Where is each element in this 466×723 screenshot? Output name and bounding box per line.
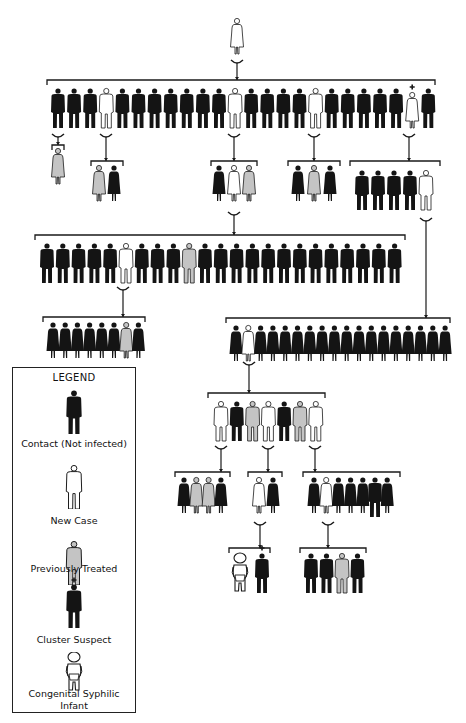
figure-contact: [214, 477, 227, 513]
index-case-figure: [231, 18, 244, 54]
figure-contact: [267, 477, 280, 513]
figure-previously-treated: [308, 165, 321, 201]
cluster-suspect-male-icon: [65, 576, 83, 628]
group-bracket: [43, 317, 145, 322]
figure-contact: [103, 243, 117, 283]
figure-contact: [320, 553, 334, 593]
figure-new-case: [309, 88, 323, 128]
figure-new-case: [228, 165, 241, 201]
figure-contact: [87, 243, 101, 283]
group-bracket: [175, 472, 230, 477]
group-bracket: [350, 161, 440, 166]
group-bracket: [226, 318, 450, 323]
figure-contact: [316, 325, 329, 361]
legend-label-infant-line1: Congenital Syphilic: [13, 688, 135, 700]
cluster-suspect-figure: [255, 546, 269, 594]
group-bracket: [91, 161, 123, 166]
figure-contact: [377, 325, 390, 361]
figure-previously-treated: [52, 148, 65, 184]
figure-contact: [371, 170, 385, 210]
figure-contact: [132, 88, 146, 128]
figure-contact: [277, 401, 291, 441]
figure-contact: [340, 325, 353, 361]
figure-contact: [254, 325, 267, 361]
figure-contact: [325, 88, 339, 128]
figure-contact: [277, 243, 291, 283]
group-bracket: [303, 472, 400, 477]
figure-contact: [59, 322, 72, 358]
figure-contact: [71, 322, 84, 358]
figure-contact: [230, 401, 244, 441]
figure-contact: [166, 243, 180, 283]
legend-label-contact: Contact (Not infected): [13, 438, 135, 450]
figure-contact: [230, 325, 243, 361]
figure-contact: [439, 325, 452, 361]
figure-contact: [304, 553, 318, 593]
figure-contact: [83, 322, 96, 358]
figure-contact: [108, 165, 121, 201]
figure-contact: [291, 325, 304, 361]
figure-contact: [40, 243, 54, 283]
figure-cluster-suspect-new: [406, 85, 419, 129]
congenital-infant-figure: [232, 553, 248, 591]
legend-title: LEGEND: [13, 372, 135, 383]
figure-previously-treated: [293, 401, 307, 441]
figure-contact: [389, 88, 403, 128]
figure-previously-treated: [93, 165, 106, 201]
figure-new-case: [214, 401, 228, 441]
figure-contact: [388, 243, 402, 283]
figure-new-case: [320, 477, 333, 513]
figure-contact: [135, 243, 149, 283]
figure-contact: [164, 88, 178, 128]
figure-contact: [357, 88, 371, 128]
figure-new-case: [419, 170, 433, 210]
legend-label-cluster-suspect: Cluster Suspect: [13, 634, 135, 646]
legend-label-new-case: New Case: [13, 515, 135, 527]
figure-previously-treated: [120, 322, 133, 358]
figure-new-case: [261, 401, 275, 441]
figure-new-case: [99, 88, 113, 128]
figure-contact: [56, 243, 70, 283]
figure-contact: [261, 243, 275, 283]
figure-contact: [95, 322, 108, 358]
figure-contact: [353, 325, 366, 361]
figure-contact: [213, 165, 226, 201]
figure-contact: [341, 88, 355, 128]
figure-contact: [276, 88, 290, 128]
legend-label-infant-line2: Infant: [13, 700, 135, 712]
figure-contact: [351, 553, 365, 593]
figure-contact: [279, 325, 292, 361]
figure-contact: [132, 322, 145, 358]
figure-contact: [67, 88, 81, 128]
figure-contact: [260, 88, 274, 128]
figure-new-case: [228, 88, 242, 128]
figure-contact: [389, 325, 402, 361]
figure-contact: [308, 477, 321, 513]
figure-contact: [292, 165, 305, 201]
figure-previously-treated: [335, 553, 349, 593]
figure-contact: [372, 243, 386, 283]
figure-previously-treated: [246, 401, 260, 441]
figure-contact: [356, 477, 369, 513]
figure-contact: [293, 243, 307, 283]
figure-contact: [309, 243, 323, 283]
figure-contact: [365, 325, 378, 361]
figure-contact: [381, 477, 394, 513]
figure-contact: [368, 477, 382, 517]
figure-contact: [198, 243, 212, 283]
figure-contact: [303, 325, 316, 361]
figure-contact: [266, 325, 279, 361]
figure-contact: [402, 325, 415, 361]
group-bracket: [35, 235, 405, 240]
legend-label-previously-treated: Previously Treated: [13, 563, 135, 575]
figure-contact: [180, 88, 194, 128]
figure-contact: [328, 325, 341, 361]
figure-contact: [108, 322, 121, 358]
figure-contact: [293, 88, 307, 128]
figure-contact: [426, 325, 439, 361]
figure-contact: [212, 88, 226, 128]
figure-contact: [244, 88, 258, 128]
figure-contact: [47, 322, 60, 358]
figure-contact: [332, 477, 345, 513]
figure-new-case: [242, 325, 255, 361]
